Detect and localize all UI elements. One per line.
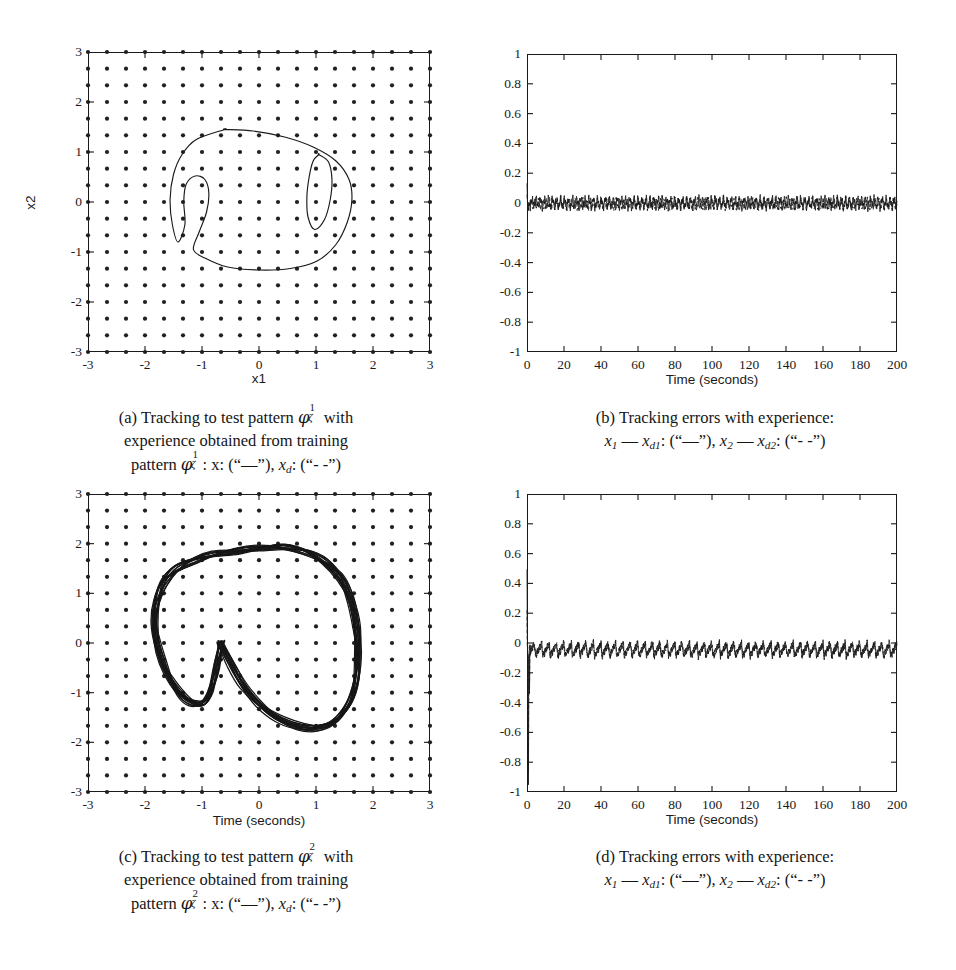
caption-c-line-2: experience obtained from training [30, 868, 442, 891]
caption-b-text-2: ”), [699, 431, 720, 450]
plot-a-xtick-3: 0 [239, 358, 279, 372]
caption-c-text-2: with [320, 847, 353, 866]
caption-a-text-2: with [320, 408, 353, 427]
plot-c-ytick-4: -1 [42, 686, 82, 700]
plot-a-xtick-1: -2 [125, 358, 165, 372]
plot-c-xtick-5: 2 [353, 798, 393, 812]
plot-c-xlabel: Time (seconds) [213, 813, 306, 828]
plot-b-xtick-5: 100 [692, 358, 732, 372]
panel-a: 3210-1-2-3 -3-2-10123 x1 x2 (a) Tracking… [0, 20, 470, 480]
caption-c-text-7: ”) [328, 894, 341, 913]
plot-b-ytick-4: 0.2 [481, 166, 521, 180]
plot-b-ytick-7: -0.4 [481, 256, 521, 270]
plot-a-ytick-5: -2 [42, 295, 82, 309]
plot-a-xtick-4: 1 [296, 358, 336, 372]
plot-a-xtick-5: 2 [353, 358, 393, 372]
caption-d-text-2: ”), [699, 870, 720, 889]
plot-b-ytick-9: -0.8 [481, 315, 521, 329]
plot-d-ytick-10: -1 [481, 785, 521, 799]
caption-a: (a) Tracking to test pattern φ1ζ with ex… [30, 406, 442, 478]
plot-c-xtick-6: 3 [410, 798, 450, 812]
caption-d: (d) Tracking errors with experience: x1 … [510, 845, 920, 893]
plot-d-ytick-4: 0.2 [481, 606, 521, 620]
caption-d-text-1: : (“ [661, 870, 683, 889]
plot-a-ytick-0: 3 [42, 45, 82, 59]
plot-b-xtick-1: 20 [544, 358, 584, 372]
plot-a-xtick-2: -1 [182, 358, 222, 372]
plot-d-canvas [527, 494, 897, 792]
plot-c [88, 494, 430, 792]
plot-b-xtick-2: 40 [581, 358, 621, 372]
plot-b-xtick-0: 0 [507, 358, 547, 372]
plot-b-xtick-6: 120 [729, 358, 769, 372]
plot-d-ytick-5: 0 [481, 636, 521, 650]
plot-d-ytick-8: -0.6 [481, 726, 521, 740]
caption-c-text-3: pattern [131, 894, 181, 913]
phi-indices-c2: 2ζ [192, 892, 202, 909]
plot-d [527, 494, 897, 792]
solid-line-glyph-c: — [241, 894, 258, 913]
plot-b [527, 54, 897, 352]
caption-b-minus-1: — [622, 431, 639, 450]
plot-c-xtick-1: -2 [125, 798, 165, 812]
caption-d-text-3: : (“ [776, 870, 798, 889]
caption-c-text-4: : x: (“ [203, 894, 242, 913]
plot-d-xtick-5: 100 [692, 798, 732, 812]
caption-c-text-1: (c) Tracking to test pattern [119, 847, 298, 866]
plot-a-xtick-0: -3 [68, 358, 108, 372]
plot-c-xtick-0: -3 [68, 798, 108, 812]
plot-a-ytick-4: -1 [42, 245, 82, 259]
plot-c-xtick-4: 1 [296, 798, 336, 812]
caption-b-xd1-sub: d1 [649, 440, 660, 452]
plot-a-ytick-1: 2 [42, 95, 82, 109]
dashed-line-glyph-b: - - [798, 431, 813, 450]
caption-d-minus-1: — [622, 870, 639, 889]
plot-d-xlabel: Time (seconds) [666, 812, 759, 827]
plot-b-ytick-6: -0.2 [481, 226, 521, 240]
plot-b-xtick-7: 140 [766, 358, 806, 372]
plot-d-ytick-1: 0.8 [481, 517, 521, 531]
caption-d-x2-sub: 2 [727, 879, 733, 891]
caption-b-line-1: (b) Tracking errors with experience: [510, 406, 920, 429]
plot-b-ytick-3: 0.4 [481, 137, 521, 151]
caption-c-text-6: : (“ [292, 894, 314, 913]
plot-c-ytick-0: 3 [42, 487, 82, 501]
caption-d-xd2: x [758, 870, 765, 889]
caption-d-xd1-sub: d1 [649, 879, 660, 891]
plot-d-xtick-6: 120 [729, 798, 769, 812]
plot-b-ytick-5: 0 [481, 196, 521, 210]
solid-line-glyph-b: — [682, 431, 699, 450]
caption-b-text-3: : (“ [776, 431, 798, 450]
panel-d: 10.80.60.40.20-0.2-0.4-0.6-0.8-1 0204060… [470, 470, 956, 940]
phi-indices-c: 2ζ [310, 846, 320, 863]
caption-b-x1-sub: 1 [612, 440, 618, 452]
caption-d-x1-sub: 1 [612, 879, 618, 891]
plot-b-ytick-2: 0.6 [481, 107, 521, 121]
plot-d-xtick-3: 60 [618, 798, 658, 812]
plot-a [88, 52, 430, 352]
plot-d-ytick-2: 0.6 [481, 547, 521, 561]
caption-b-x2-sub: 2 [727, 440, 733, 452]
caption-c-text-5: ”), [258, 894, 279, 913]
caption-b-x1: x [604, 431, 611, 450]
phi-indices-a2: 1ζ [192, 453, 202, 470]
plot-a-canvas [88, 52, 430, 352]
plot-d-xtick-4: 80 [655, 798, 695, 812]
caption-b-text-4: ”) [813, 431, 826, 450]
plot-d-ytick-0: 1 [481, 487, 521, 501]
plot-d-xtick-1: 20 [544, 798, 584, 812]
plot-d-ytick-3: 0.4 [481, 577, 521, 591]
plot-b-xtick-8: 160 [803, 358, 843, 372]
plot-b-canvas [527, 54, 897, 352]
phi-indices-a: 1ζ [310, 407, 320, 424]
plot-b-xtick-4: 80 [655, 358, 695, 372]
plot-d-xtick-10: 200 [877, 798, 917, 812]
caption-d-line-1: (d) Tracking errors with experience: [510, 845, 920, 868]
plot-b-ytick-1: 0.8 [481, 77, 521, 91]
plot-d-xtick-7: 140 [766, 798, 806, 812]
solid-line-glyph-d: — [682, 870, 699, 889]
panel-b: 10.80.60.40.20-0.2-0.4-0.6-0.8-1 0204060… [470, 20, 956, 480]
caption-c: (c) Tracking to test pattern φ2ζ with ex… [30, 845, 442, 917]
caption-d-x1: x [604, 870, 611, 889]
dashed-line-glyph-c: - - [313, 894, 328, 913]
